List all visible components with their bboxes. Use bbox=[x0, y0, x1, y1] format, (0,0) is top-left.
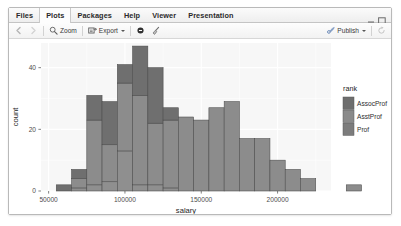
histogram-bar-segment bbox=[300, 179, 315, 191]
histogram-bar-segment bbox=[285, 169, 300, 191]
magnifier-icon bbox=[49, 26, 58, 35]
histogram-bar-segment bbox=[117, 65, 132, 84]
broom-clear-icon bbox=[151, 26, 161, 36]
export-icon bbox=[88, 26, 97, 35]
chevron-down-icon[interactable] bbox=[362, 30, 366, 32]
toolbar-separator bbox=[130, 26, 131, 36]
clear-all-plots-button[interactable] bbox=[148, 24, 164, 38]
tab-files[interactable]: Files bbox=[9, 8, 39, 23]
histogram-bar-segment bbox=[178, 117, 193, 191]
tab-packages[interactable]: Packages bbox=[71, 8, 117, 23]
forward-arrow-icon bbox=[29, 26, 38, 35]
histogram-bar-segment bbox=[102, 102, 117, 145]
legend-label: Prof bbox=[357, 126, 369, 133]
y-tick-label: 40 bbox=[29, 64, 37, 71]
tab-list: FilesPlotsPackagesHelpViewerPresentation bbox=[9, 8, 240, 23]
back-arrow-icon bbox=[14, 26, 23, 35]
toolbar-separator bbox=[43, 26, 44, 36]
publish-label: Publish bbox=[337, 27, 359, 34]
window-controls bbox=[367, 11, 386, 19]
tab-help[interactable]: Help bbox=[118, 8, 146, 23]
histogram-bar-segment bbox=[117, 83, 132, 151]
back-button[interactable] bbox=[9, 24, 26, 38]
histogram-bar-segment bbox=[102, 182, 117, 191]
tab-viewer[interactable]: Viewer bbox=[146, 8, 182, 23]
legend-title: rank bbox=[343, 84, 357, 93]
histogram-bar-segment bbox=[87, 120, 102, 185]
histogram-bar-segment bbox=[133, 185, 148, 191]
legend-label: AssocProf bbox=[357, 100, 387, 107]
legend-swatch bbox=[343, 97, 354, 109]
zoom-label: Zoom bbox=[60, 27, 77, 34]
rstudio-plots-window: FilesPlotsPackagesHelpViewerPresentation bbox=[8, 7, 392, 215]
histogram-bar-segment bbox=[163, 188, 178, 191]
tab-presentation[interactable]: Presentation bbox=[182, 8, 239, 23]
histogram-bar-segment bbox=[148, 68, 163, 124]
histogram-bar-segment bbox=[117, 151, 132, 191]
legend-label: AsstProf bbox=[357, 113, 382, 120]
legend-swatch bbox=[343, 110, 354, 122]
histogram-bar-segment bbox=[87, 185, 102, 191]
legend-swatch bbox=[343, 123, 354, 135]
chevron-down-icon[interactable] bbox=[121, 30, 125, 32]
histogram-bar-segment bbox=[56, 185, 71, 191]
histogram-bar-segment bbox=[255, 139, 270, 191]
ggplot-stacked-histogram: 5000010000015000020000002040salarycountr… bbox=[9, 39, 391, 214]
plots-pane-screenshot: FilesPlotsPackagesHelpViewerPresentation bbox=[0, 0, 401, 226]
refresh-button[interactable] bbox=[374, 24, 391, 38]
histogram-bar-segment bbox=[72, 188, 87, 191]
x-axis-title: salary bbox=[176, 206, 196, 214]
histogram-bar-segment bbox=[148, 185, 163, 191]
export-label: Export bbox=[99, 27, 118, 34]
histogram-bar-segment bbox=[224, 102, 239, 191]
remove-plot-button[interactable] bbox=[133, 24, 148, 38]
pane-tab-bar: FilesPlotsPackagesHelpViewerPresentation bbox=[9, 8, 391, 23]
histogram-bar-segment bbox=[194, 120, 209, 191]
plots-toolbar: Zoom Export bbox=[9, 23, 391, 39]
histogram-bar-segment bbox=[163, 120, 178, 188]
histogram-bar-segment bbox=[102, 145, 117, 182]
forward-button[interactable] bbox=[26, 24, 41, 38]
histogram-bar-segment bbox=[148, 123, 163, 185]
refresh-icon bbox=[377, 26, 386, 35]
publish-icon bbox=[326, 26, 335, 35]
x-tick-label: 100000 bbox=[114, 196, 136, 203]
histogram-bar-segment bbox=[270, 160, 285, 191]
x-tick-label: 50000 bbox=[39, 196, 58, 203]
histogram-bar-segment bbox=[346, 185, 361, 191]
y-tick-label: 20 bbox=[29, 126, 37, 133]
x-tick-label: 200000 bbox=[267, 196, 289, 203]
histogram-bar-segment bbox=[72, 169, 87, 178]
minimize-icon[interactable] bbox=[367, 11, 375, 19]
toolbar-separator bbox=[371, 26, 372, 36]
plot-canvas: 5000010000015000020000002040salarycountr… bbox=[9, 39, 391, 214]
maximize-icon[interactable] bbox=[378, 11, 386, 19]
histogram-bar-segment bbox=[87, 95, 102, 120]
y-axis-title: count bbox=[11, 107, 20, 126]
histogram-bar-segment bbox=[133, 46, 148, 95]
histogram-bar-segment bbox=[72, 179, 87, 188]
remove-plot-icon bbox=[136, 26, 145, 35]
zoom-button[interactable]: Zoom bbox=[46, 24, 80, 38]
histogram-bar-segment bbox=[239, 139, 254, 191]
x-tick-label: 150000 bbox=[190, 196, 212, 203]
histogram-bar-segment bbox=[133, 95, 148, 184]
export-button[interactable]: Export bbox=[85, 24, 128, 38]
y-tick-label: 0 bbox=[32, 187, 36, 194]
histogram-bar-segment bbox=[163, 108, 178, 120]
histogram-bar-segment bbox=[209, 108, 224, 191]
tab-plots[interactable]: Plots bbox=[39, 8, 71, 24]
toolbar-separator bbox=[82, 26, 83, 36]
publish-button[interactable]: Publish bbox=[323, 24, 369, 38]
